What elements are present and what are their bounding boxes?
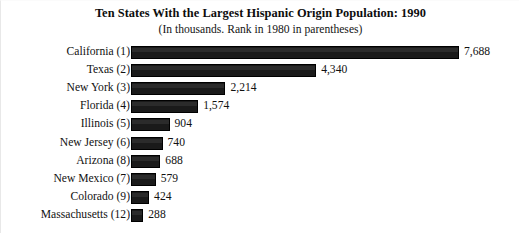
bar-category-label: Arizona (8) bbox=[0, 154, 130, 168]
bar bbox=[131, 46, 459, 59]
bar-value-label: 288 bbox=[148, 208, 165, 222]
bar-category-label: Colorado (9) bbox=[0, 190, 130, 204]
bar bbox=[131, 64, 316, 77]
bar-row: Texas (2)4,340 bbox=[1, 64, 519, 77]
bar-row: Colorado (9)424 bbox=[1, 191, 519, 204]
bar bbox=[131, 137, 163, 150]
bar-category-label: New Jersey (6) bbox=[0, 136, 130, 150]
bar-row: Illinois (5)904 bbox=[1, 118, 519, 131]
bar bbox=[131, 209, 143, 222]
chart-container: Ten States With the Largest Hispanic Ori… bbox=[0, 0, 519, 233]
bar-row: New Mexico (7)579 bbox=[1, 173, 519, 186]
bar bbox=[131, 82, 225, 95]
bar bbox=[131, 173, 156, 186]
chart-title: Ten States With the Largest Hispanic Ori… bbox=[1, 6, 519, 21]
bar-value-label: 1,574 bbox=[203, 99, 229, 113]
chart-subtitle: (In thousands. Rank in 1980 in parenthes… bbox=[1, 23, 519, 36]
bar-value-label: 579 bbox=[161, 172, 178, 186]
bar-value-label: 904 bbox=[175, 117, 192, 131]
bar-category-label: Florida (4) bbox=[0, 99, 130, 113]
bar-value-label: 4,340 bbox=[321, 63, 347, 77]
bar bbox=[131, 191, 149, 204]
bar-value-label: 424 bbox=[154, 190, 171, 204]
bar-value-label: 740 bbox=[168, 136, 185, 150]
bar bbox=[131, 155, 160, 168]
bar-highlight bbox=[132, 102, 197, 106]
bar-highlight bbox=[132, 193, 148, 197]
bar-highlight bbox=[132, 175, 155, 179]
bar-row: New Jersey (6)740 bbox=[1, 137, 519, 150]
bar-row: California (1)7,688 bbox=[1, 46, 519, 59]
bar bbox=[131, 118, 170, 131]
bar-value-label: 688 bbox=[165, 154, 182, 168]
bar-highlight bbox=[132, 157, 159, 161]
bar-highlight bbox=[132, 139, 162, 143]
bar-highlight bbox=[132, 120, 169, 124]
bar-highlight bbox=[132, 84, 224, 88]
bar-highlight bbox=[132, 48, 458, 52]
bar-category-label: New Mexico (7) bbox=[0, 172, 130, 186]
bar bbox=[131, 100, 198, 113]
bar-highlight bbox=[132, 211, 142, 215]
bar-category-label: California (1) bbox=[0, 45, 130, 59]
bar-category-label: New York (3) bbox=[0, 81, 130, 95]
bar-value-label: 7,688 bbox=[464, 45, 490, 59]
bar-row: Arizona (8)688 bbox=[1, 155, 519, 168]
bar-highlight bbox=[132, 66, 315, 70]
bar-row: New York (3)2,214 bbox=[1, 82, 519, 95]
bar-category-label: Texas (2) bbox=[0, 63, 130, 77]
bar-value-label: 2,214 bbox=[230, 81, 256, 95]
bar-row: Massachusetts (12)288 bbox=[1, 209, 519, 222]
plot-area: California (1)7,688Texas (2)4,340New Yor… bbox=[1, 44, 519, 230]
bar-category-label: Massachusetts (12) bbox=[0, 208, 130, 222]
bar-row: Florida (4)1,574 bbox=[1, 100, 519, 113]
bar-category-label: Illinois (5) bbox=[0, 117, 130, 131]
